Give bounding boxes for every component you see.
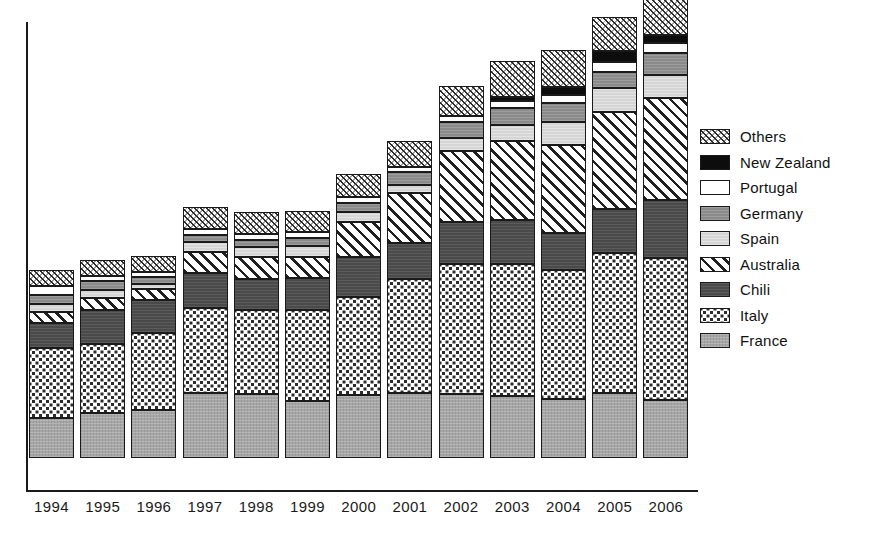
- bar-1998[interactable]: [234, 212, 279, 458]
- x-tick-label-2000: 2000: [330, 498, 388, 515]
- segment-others-1996: [131, 256, 176, 272]
- segment-germany-2001: [387, 172, 432, 185]
- legend-item-france[interactable]: France: [700, 328, 875, 354]
- bar-2001[interactable]: [387, 141, 432, 458]
- segment-australia-2002: [439, 151, 484, 222]
- y-axis-line: [26, 22, 28, 492]
- bar-2003[interactable]: [490, 61, 535, 458]
- segment-spain-1998: [234, 247, 279, 256]
- legend-item-spain[interactable]: Spain: [700, 226, 875, 252]
- bar-2006[interactable]: [643, 0, 688, 458]
- segment-france-1995: [80, 413, 125, 458]
- segment-chili-1997: [183, 273, 228, 309]
- bar-2005[interactable]: [592, 17, 637, 458]
- legend-item-portugal[interactable]: Portugal: [700, 175, 875, 201]
- segment-portugal-1998: [234, 234, 279, 240]
- segment-italy-2001: [387, 279, 432, 393]
- segment-australia-1994: [29, 312, 74, 322]
- x-tick-label-1997: 1997: [176, 498, 234, 515]
- france-swatch-icon: [700, 333, 730, 348]
- segment-france-1994: [29, 418, 74, 458]
- segment-france-1997: [183, 393, 228, 458]
- x-axis-line: [26, 490, 698, 492]
- segment-germany-1994: [29, 295, 74, 304]
- x-tick-label-2002: 2002: [432, 498, 490, 515]
- segment-portugal-2005: [592, 62, 637, 72]
- legend-label: Spain: [740, 230, 779, 247]
- segment-germany-1995: [80, 281, 125, 290]
- segment-portugal-2001: [387, 167, 432, 172]
- segment-newzealand-2003: [490, 97, 535, 101]
- segment-portugal-1999: [285, 232, 330, 238]
- segment-others-2004: [541, 50, 586, 87]
- segment-france-1999: [285, 401, 330, 458]
- legend-item-newzealand[interactable]: New Zealand: [700, 150, 875, 176]
- segment-australia-2000: [336, 222, 381, 257]
- italy-swatch-icon: [700, 308, 730, 323]
- x-tick-label-1996: 1996: [125, 498, 183, 515]
- legend-label: France: [740, 332, 788, 349]
- segment-italy-2004: [541, 270, 586, 399]
- legend-item-italy[interactable]: Italy: [700, 303, 875, 329]
- segment-spain-2005: [592, 88, 637, 112]
- segment-australia-1998: [234, 257, 279, 279]
- legend-label: New Zealand: [740, 154, 831, 171]
- x-tick-label-1998: 1998: [227, 498, 285, 515]
- legend-label: Chili: [740, 281, 770, 298]
- segment-chili-2001: [387, 243, 432, 279]
- segment-italy-2003: [490, 264, 535, 396]
- segment-chili-2002: [439, 222, 484, 264]
- bar-1997[interactable]: [183, 207, 228, 458]
- australia-swatch-icon: [700, 257, 730, 272]
- segment-chili-2005: [592, 209, 637, 253]
- x-tick-label-2005: 2005: [586, 498, 644, 515]
- bar-1999[interactable]: [285, 211, 330, 458]
- segment-france-2002: [439, 394, 484, 458]
- segment-italy-1995: [80, 344, 125, 413]
- segment-others-2002: [439, 86, 484, 116]
- segment-others-1995: [80, 260, 125, 276]
- legend-label: Italy: [740, 307, 769, 324]
- segment-portugal-1997: [183, 229, 228, 235]
- bar-1994[interactable]: [29, 270, 74, 458]
- legend-item-others[interactable]: Others: [700, 124, 875, 150]
- segment-spain-2006: [643, 75, 688, 98]
- segment-others-2006: [643, 0, 688, 35]
- segment-germany-1999: [285, 238, 330, 246]
- segment-australia-2004: [541, 145, 586, 233]
- segment-others-2001: [387, 141, 432, 167]
- segment-chili-2006: [643, 200, 688, 258]
- segment-italy-1999: [285, 310, 330, 401]
- segment-portugal-2006: [643, 43, 688, 52]
- segment-others-1997: [183, 207, 228, 229]
- bar-2004[interactable]: [541, 50, 586, 458]
- segment-france-2004: [541, 399, 586, 458]
- segment-germany-2006: [643, 53, 688, 75]
- legend-item-germany[interactable]: Germany: [700, 201, 875, 227]
- segment-italy-1996: [131, 333, 176, 409]
- bar-2000[interactable]: [336, 174, 381, 458]
- segment-france-1998: [234, 394, 279, 458]
- segment-italy-2002: [439, 264, 484, 394]
- segment-chili-1998: [234, 279, 279, 310]
- segment-others-2000: [336, 174, 381, 197]
- others-swatch-icon: [700, 129, 730, 144]
- legend-item-chili[interactable]: Chili: [700, 277, 875, 303]
- segment-portugal-1994: [29, 286, 74, 294]
- segment-spain-2004: [541, 122, 586, 145]
- bar-2002[interactable]: [439, 86, 484, 458]
- legend-item-australia[interactable]: Australia: [700, 252, 875, 278]
- segment-others-1994: [29, 270, 74, 286]
- segment-italy-2000: [336, 297, 381, 395]
- segment-france-2003: [490, 396, 535, 458]
- segment-australia-1999: [285, 257, 330, 278]
- bar-1996[interactable]: [131, 256, 176, 458]
- chart-legend: OthersNew ZealandPortugalGermanySpainAus…: [700, 124, 875, 354]
- segment-chili-2004: [541, 233, 586, 271]
- segment-germany-2005: [592, 72, 637, 88]
- bar-1995[interactable]: [80, 260, 125, 458]
- segment-spain-1994: [29, 304, 74, 312]
- x-tick-label-1994: 1994: [23, 498, 81, 515]
- legend-label: Australia: [740, 256, 800, 273]
- segment-others-2003: [490, 61, 535, 97]
